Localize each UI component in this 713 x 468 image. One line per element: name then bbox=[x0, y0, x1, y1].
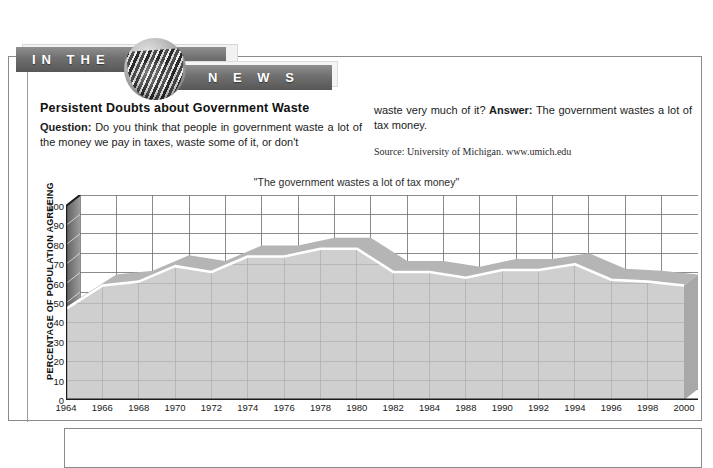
plot-svg bbox=[66, 195, 698, 400]
source-credit: Source: University of Michigan. www.umic… bbox=[374, 146, 692, 157]
plot-area bbox=[66, 195, 698, 400]
y-tick-label: 10 bbox=[38, 375, 64, 386]
y-tick-label: 90 bbox=[38, 220, 64, 231]
y-tick-label: 40 bbox=[38, 317, 64, 328]
x-tick-label: 1966 bbox=[92, 402, 113, 413]
y-tick-label: 50 bbox=[38, 298, 64, 309]
x-tick-label: 1988 bbox=[455, 402, 476, 413]
x-tick-label: 1992 bbox=[528, 402, 549, 413]
x-tick-label: 1982 bbox=[383, 402, 404, 413]
answer-label: Answer: bbox=[489, 104, 532, 116]
y-tick-label: 20 bbox=[38, 356, 64, 367]
y-tick-label: 70 bbox=[38, 259, 64, 270]
x-tick-label: 1980 bbox=[346, 402, 367, 413]
y-tick-label: 30 bbox=[38, 336, 64, 347]
x-tick-label: 1976 bbox=[274, 402, 295, 413]
question-continued: waste very much of it? bbox=[374, 104, 489, 116]
next-panel bbox=[64, 428, 702, 468]
question-column: Question: Do you think that people in go… bbox=[40, 120, 362, 149]
y-axis-ticks: 0102030405060708090100 bbox=[38, 190, 64, 398]
x-tick-label: 1984 bbox=[419, 402, 440, 413]
rolled-newspaper-icon bbox=[124, 38, 186, 100]
x-axis-ticks: 1964196619681970197219741976197819801982… bbox=[62, 402, 698, 416]
x-tick-label: 1996 bbox=[601, 402, 622, 413]
area-right-face bbox=[684, 275, 698, 400]
x-tick-label: 1964 bbox=[55, 402, 76, 413]
answer-column: waste very much of it? Answer: The gover… bbox=[374, 103, 692, 132]
x-tick-label: 1978 bbox=[310, 402, 331, 413]
newspaper-curl-shape bbox=[134, 60, 178, 100]
x-tick-label: 1990 bbox=[492, 402, 513, 413]
x-tick-label: 1998 bbox=[637, 402, 658, 413]
x-tick-label: 1974 bbox=[237, 402, 258, 413]
banner-right-text: N E W S bbox=[208, 70, 300, 85]
y-tick-label: 80 bbox=[38, 239, 64, 250]
y-tick-label: 100 bbox=[38, 201, 64, 212]
article-headline: Persistent Doubts about Government Waste bbox=[40, 101, 309, 115]
x-tick-label: 1994 bbox=[564, 402, 585, 413]
x-tick-label: 1970 bbox=[164, 402, 185, 413]
chart-title: "The government wastes a lot of tax mone… bbox=[0, 176, 713, 188]
question-label: Question: bbox=[40, 121, 91, 133]
area-chart: PERCENTAGE OF POPULATION AGREEING 010203… bbox=[18, 190, 698, 422]
y-tick-label: 60 bbox=[38, 278, 64, 289]
x-tick-label: 1972 bbox=[201, 402, 222, 413]
banner-left-text: IN THE bbox=[32, 52, 111, 67]
x-tick-label: 2000 bbox=[673, 402, 694, 413]
x-tick-label: 1968 bbox=[128, 402, 149, 413]
in-the-news-banner: IN THE N E W S bbox=[16, 38, 326, 90]
